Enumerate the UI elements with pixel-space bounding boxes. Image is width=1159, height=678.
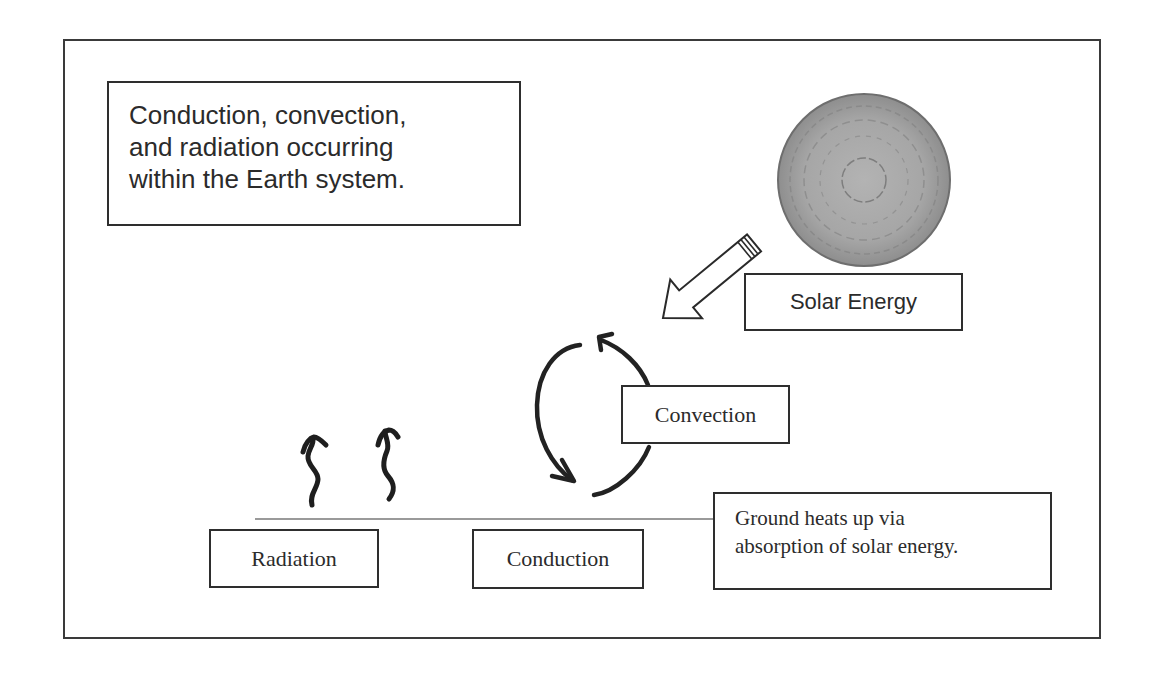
- conduction-label: Conduction: [472, 529, 644, 589]
- solar-energy-text: Solar Energy: [790, 289, 917, 315]
- convection-label: Convection: [621, 385, 790, 444]
- conduction-text: Conduction: [507, 546, 610, 572]
- radiation-label: Radiation: [209, 529, 379, 588]
- title-line-2: and radiation occurring: [129, 131, 519, 163]
- solar-energy-label: Solar Energy: [744, 273, 963, 331]
- ground-heating-note: Ground heats up via absorption of solar …: [713, 492, 1052, 590]
- radiation-text: Radiation: [251, 546, 337, 572]
- convection-text: Convection: [655, 402, 756, 428]
- title-line-1: Conduction, convection,: [129, 99, 519, 131]
- ground-note-line-1: Ground heats up via: [735, 504, 1050, 532]
- ground-note-line-2: absorption of solar energy.: [735, 532, 1050, 560]
- title-line-3: within the Earth system.: [129, 163, 519, 195]
- diagram-title: Conduction, convection, and radiation oc…: [107, 81, 521, 226]
